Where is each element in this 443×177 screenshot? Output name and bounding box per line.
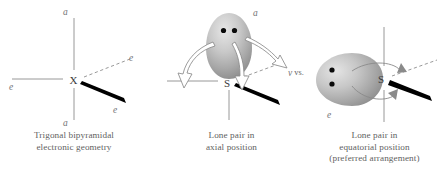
vsepr-figure: X a a e e e S a v bbox=[0, 0, 443, 177]
panel-3-caption-line-2: equatorial position bbox=[306, 142, 443, 154]
panel-1-label-equatorial-front: e bbox=[113, 105, 117, 115]
panel-1-label-equatorial-left: e bbox=[9, 82, 13, 92]
panel-2-caption-line-2: axial position bbox=[163, 142, 300, 154]
panel-2-lone-pair-dot-2 bbox=[232, 28, 237, 33]
panel-1-caption-line-2: electronic geometry bbox=[6, 142, 142, 154]
panel-1-caption: Trigonal bipyramidal electronic geometry bbox=[6, 130, 142, 153]
panel-3-structure: S e bbox=[316, 27, 437, 122]
equatorial-bond-wedge bbox=[80, 81, 126, 103]
panel-3-caption: Lone pair in equatorial position (prefer… bbox=[306, 130, 443, 165]
panel-3-center-atom: S bbox=[378, 73, 384, 85]
panel-1-caption-line-1: Trigonal bipyramidal bbox=[6, 130, 142, 142]
panel-3-label-equatorial-lone-pair: e bbox=[327, 110, 331, 120]
panel-1-label-equatorial-back: e bbox=[129, 53, 133, 63]
panel-2-caption: Lone pair in axial position bbox=[163, 130, 300, 153]
panel-3-lone-pair-dot-2 bbox=[329, 81, 334, 86]
panel-2-caption-line-1: Lone pair in bbox=[163, 130, 300, 142]
panel-2-center-atom: S bbox=[224, 77, 230, 89]
panel-2-structure: S a v bbox=[167, 8, 293, 120]
panel-3-lone-pair-dot-1 bbox=[329, 67, 334, 72]
panel-1-center-atom: X bbox=[70, 74, 78, 86]
panel-1-label-axial-top: a bbox=[63, 7, 68, 17]
panel-1-label-axial-bottom: a bbox=[63, 118, 68, 128]
panel-3-repulsion-arrow-bottom-head bbox=[388, 89, 398, 100]
panel-2-lone-pair-dot-1 bbox=[221, 28, 226, 33]
panel-3-equatorial-bond-dashed bbox=[392, 60, 437, 76]
panel-1-structure: X a a e e e bbox=[9, 7, 133, 128]
panel-3-caption-line-1: Lone pair in bbox=[306, 130, 443, 142]
panel-2-label-axial-top: a bbox=[253, 8, 258, 18]
comparator-label: vs. bbox=[288, 68, 310, 77]
panel-3-caption-line-3: (preferred arrangement) bbox=[306, 153, 443, 165]
equatorial-bond-dashed bbox=[84, 59, 130, 77]
